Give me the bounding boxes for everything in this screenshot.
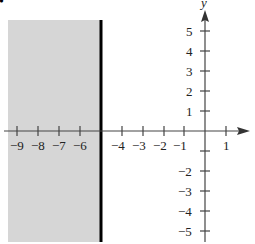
y-tick-label: −4 bbox=[178, 204, 192, 219]
x-tick-label: −8 bbox=[31, 138, 45, 153]
y-tick-label: −2 bbox=[178, 164, 192, 179]
x-tick-label: −9 bbox=[10, 138, 24, 153]
x-tick-label: 1 bbox=[223, 138, 230, 153]
y-axis: y 5 4 3 2 1 −2 −3 −4 −5 bbox=[178, 0, 210, 242]
y-tick-label: 4 bbox=[186, 44, 193, 59]
y-tick-label: 3 bbox=[186, 64, 193, 79]
y-tick-label: −3 bbox=[178, 184, 192, 199]
y-tick-label: −5 bbox=[178, 224, 192, 239]
x-tick-label: −2 bbox=[153, 138, 167, 153]
y-tick-label: 5 bbox=[186, 24, 193, 39]
x-tick-label: −3 bbox=[132, 138, 146, 153]
x-tick-label: −4 bbox=[111, 138, 125, 153]
coordinate-plane: −9 −8 −7 −6 −4 −3 −2 −1 1 y 5 4 3 2 1 −2 bbox=[0, 0, 255, 244]
y-tick-label: 1 bbox=[186, 104, 193, 119]
x-tick-label: −1 bbox=[173, 138, 187, 153]
y-tick-label: 2 bbox=[186, 84, 193, 99]
x-tick-label: −7 bbox=[52, 138, 66, 153]
y-axis-label: y bbox=[199, 0, 207, 10]
x-tick-label: −6 bbox=[73, 138, 87, 153]
